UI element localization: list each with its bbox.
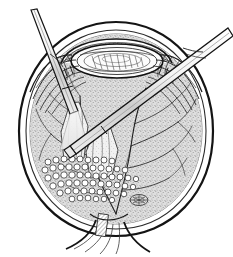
eye-illustration-figure: Cross-sectional illustration of the huma… [0,0,233,257]
macula [130,195,148,206]
crystalline-lens [71,44,163,78]
eye-cross-section-drawing [0,0,233,257]
